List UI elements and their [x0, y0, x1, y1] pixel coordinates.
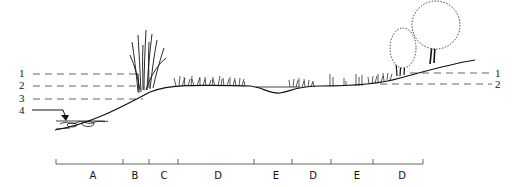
level-label-3-left: 3	[19, 93, 25, 104]
reed-cluster	[130, 30, 166, 93]
zone-label-d2: D	[309, 170, 317, 181]
zone-label-e1: E	[273, 170, 279, 181]
zone-scale	[56, 159, 423, 164]
level-label-4-left: 4	[19, 105, 25, 116]
water-level-lines-left	[33, 74, 143, 99]
ground-profile	[55, 60, 475, 130]
tree	[412, 1, 460, 64]
zone-label-d1: D	[214, 170, 222, 181]
zone-label-a: A	[90, 170, 97, 181]
zone-label-b: B	[132, 170, 139, 181]
zone-label-e2: E	[354, 170, 360, 181]
cross-section-diagram: 1 2 3 4 1 2 A B C D E D E D	[0, 0, 512, 187]
level-label-2-left: 2	[19, 80, 25, 91]
leader-line-4	[32, 110, 66, 118]
zone-label-d3: D	[398, 170, 406, 181]
profile-drawing	[0, 0, 512, 187]
arrow-marker-icon	[61, 115, 69, 121]
level-label-1-left: 1	[19, 68, 25, 79]
zone-label-c: C	[161, 170, 168, 181]
shrub	[390, 28, 416, 76]
level-label-2-right: 2	[495, 79, 501, 90]
